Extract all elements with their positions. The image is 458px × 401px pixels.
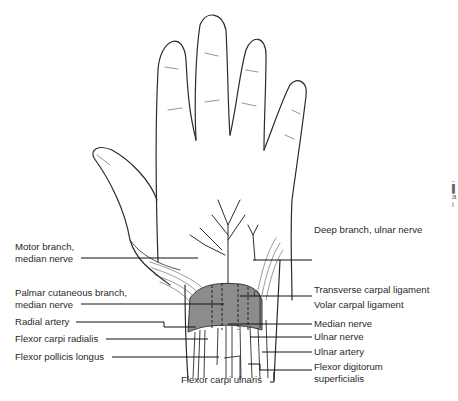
ring-finger-outline: [230, 39, 266, 150]
label-line: median nerve: [15, 253, 74, 265]
label-flexor-carpi-ulnaris: Flexor carpi ulnaris: [181, 374, 262, 386]
wrist-outline-right: [274, 260, 280, 380]
label-ulnar-nerve: Ulnar nerve: [314, 331, 364, 343]
thumb-outline: [93, 148, 170, 285]
transverse-carpal-ligament-region: [188, 283, 262, 332]
label-palmar-cutaneous-branch: Palmar cutaneous branch, median nerve: [15, 287, 127, 310]
label-motor-branch-median-nerve: Motor branch, median nerve: [15, 241, 74, 264]
label-line: median nerve: [15, 299, 127, 311]
cropped-text-fragment: - ▌ a i: [452, 177, 458, 209]
label-median-nerve: Median nerve: [314, 318, 372, 330]
label-transverse-carpal-ligament: Transverse carpal ligament: [314, 284, 429, 296]
label-line: Palmar cutaneous branch,: [15, 287, 127, 299]
label-flexor-digitorum-superficialis: Flexor digitorum superficialis: [314, 361, 383, 384]
label-ulnar-artery: Ulnar artery: [314, 346, 364, 358]
label-line: Flexor digitorum: [314, 361, 383, 373]
label-line: Motor branch,: [15, 241, 74, 253]
label-flexor-carpi-radialis: Flexor carpi radialis: [15, 333, 98, 345]
index-finger-outline: [156, 41, 196, 262]
label-line: superficialis: [314, 373, 383, 385]
label-radial-artery: Radial artery: [15, 316, 69, 328]
label-flexor-pollicis-longus: Flexor pollicis longus: [15, 351, 104, 363]
middle-finger-outline: [195, 15, 230, 140]
label-volar-carpal-ligament: Volar carpal ligament: [314, 299, 404, 311]
label-deep-branch-ulnar-nerve: Deep branch, ulnar nerve: [314, 224, 422, 236]
